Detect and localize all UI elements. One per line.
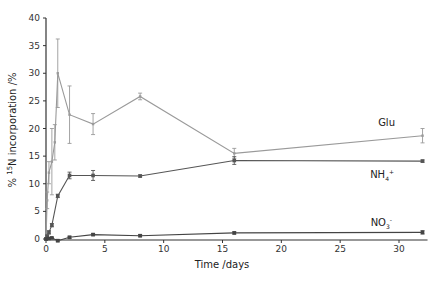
chart: 0510152025303540051015202530Time /days% … bbox=[0, 0, 444, 282]
data-point bbox=[138, 234, 142, 238]
series-label: NH4+ bbox=[370, 168, 394, 182]
data-point bbox=[54, 141, 56, 143]
series-group bbox=[44, 39, 424, 242]
data-point bbox=[92, 123, 94, 125]
y-axis-title: % 15N incorporation /% bbox=[6, 72, 18, 187]
data-point bbox=[57, 72, 59, 74]
x-tick-label: 20 bbox=[276, 244, 288, 254]
data-point bbox=[421, 231, 425, 235]
data-point bbox=[50, 223, 54, 227]
series-nh4 bbox=[44, 157, 424, 241]
data-point bbox=[91, 233, 95, 237]
y-tick-label: 0 bbox=[34, 234, 40, 244]
data-point bbox=[139, 95, 141, 97]
labels-group: GluNH4+NO3- bbox=[370, 117, 395, 230]
x-tick-label: 5 bbox=[102, 244, 108, 254]
x-tick-label: 15 bbox=[217, 244, 228, 254]
y-tick-label: 15 bbox=[29, 151, 40, 161]
data-point bbox=[233, 152, 235, 154]
data-point bbox=[232, 231, 236, 235]
data-point bbox=[91, 174, 95, 178]
data-point bbox=[421, 134, 423, 136]
data-point bbox=[56, 194, 60, 198]
x-tick-label: 10 bbox=[158, 244, 170, 254]
y-tick-label: 25 bbox=[29, 96, 40, 106]
x-tick-label: 30 bbox=[393, 244, 405, 254]
data-point bbox=[48, 172, 50, 174]
series-line bbox=[46, 161, 423, 240]
data-point bbox=[51, 160, 53, 162]
data-point bbox=[68, 236, 72, 240]
x-tick-label: 25 bbox=[334, 244, 345, 254]
series-glu bbox=[45, 39, 425, 240]
data-point bbox=[68, 174, 72, 178]
data-point bbox=[56, 239, 60, 243]
y-tick-label: 5 bbox=[34, 206, 40, 216]
data-point bbox=[232, 159, 236, 163]
data-point bbox=[421, 159, 425, 163]
y-tick-label: 30 bbox=[29, 68, 41, 78]
series-no3 bbox=[44, 231, 424, 243]
x-axis-title: Time /days bbox=[194, 259, 250, 270]
series-label: Glu bbox=[378, 117, 395, 128]
data-point bbox=[68, 113, 70, 115]
data-point bbox=[138, 174, 142, 178]
y-tick-label: 40 bbox=[29, 13, 41, 23]
x-tick-label: 0 bbox=[43, 244, 49, 254]
y-tick-label: 10 bbox=[29, 179, 41, 189]
y-tick-label: 35 bbox=[29, 41, 40, 51]
series-label: NO3- bbox=[371, 216, 392, 230]
data-point bbox=[50, 236, 54, 240]
data-point bbox=[47, 231, 51, 235]
y-tick-label: 20 bbox=[29, 124, 41, 134]
data-point bbox=[46, 199, 48, 201]
